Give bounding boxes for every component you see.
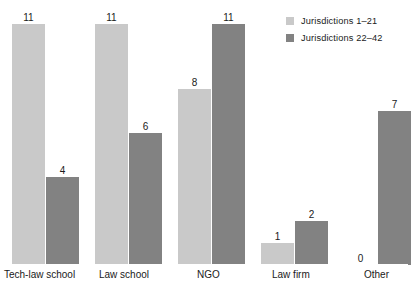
bar-group-ngo: 8 11 — [178, 0, 246, 265]
bar-value-label: 1 — [261, 231, 294, 242]
bar-value-label: 6 — [129, 121, 162, 132]
bar-ngo-series2[interactable] — [212, 24, 245, 265]
bar-group-tech-law-school: 11 4 — [12, 0, 80, 265]
bar-value-label: 0 — [344, 253, 377, 264]
axis-baseline — [0, 264, 408, 265]
x-axis-label-law-firm: Law firm — [272, 268, 310, 282]
bar-law-firm-series2[interactable] — [295, 221, 328, 265]
bar-group-law-school: 11 6 — [95, 0, 163, 265]
bar-law-school-series2[interactable] — [129, 133, 162, 265]
x-axis-label-other: Other — [364, 268, 389, 282]
legend-item-jurisdictions-1-21[interactable]: Jurisdictions 1–21 — [286, 14, 408, 28]
square-swatch-light-icon — [286, 17, 294, 25]
bar-value-label: 2 — [295, 209, 328, 220]
bar-value-label: 7 — [378, 99, 411, 110]
bar-value-label: 4 — [46, 165, 79, 176]
bar-tech-law-school-series2[interactable] — [46, 177, 79, 265]
bar-value-label: 11 — [12, 12, 45, 23]
legend-label: Jurisdictions 1–21 — [301, 16, 377, 26]
bar-other-series2[interactable] — [378, 111, 411, 265]
x-axis-label-ngo: NGO — [197, 268, 220, 282]
bar-tech-law-school-series1[interactable] — [12, 24, 45, 265]
x-axis-label-tech-law-school: Tech-law school — [4, 268, 75, 282]
bar-law-school-series1[interactable] — [95, 24, 128, 265]
chart-legend: Jurisdictions 1–21 Jurisdictions 22–42 — [286, 14, 408, 48]
bar-ngo-series1[interactable] — [178, 89, 211, 265]
bar-value-label: 11 — [212, 12, 245, 23]
bar-value-label: 8 — [178, 77, 211, 88]
x-axis-labels: Tech-law school Law school NGO Law firm … — [0, 268, 408, 292]
x-axis-label-law-school: Law school — [99, 268, 149, 282]
bar-law-firm-series1[interactable] — [261, 243, 294, 265]
legend-item-jurisdictions-22-42[interactable]: Jurisdictions 22–42 — [286, 31, 408, 45]
bar-value-label: 11 — [95, 12, 128, 23]
legend-label: Jurisdictions 22–42 — [301, 33, 383, 43]
square-swatch-dark-icon — [286, 34, 294, 42]
